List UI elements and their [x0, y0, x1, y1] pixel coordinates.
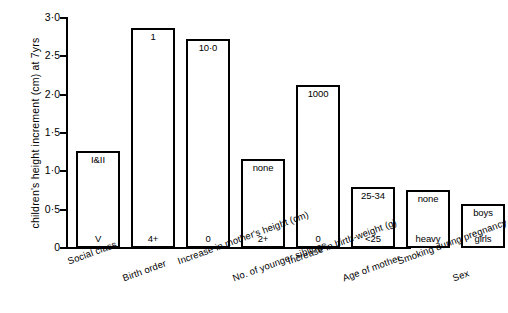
- bar-top-label: 25-34: [353, 191, 393, 201]
- x-axis-category-label: Sex: [451, 267, 470, 283]
- y-axis-tick-label: 1·0: [26, 165, 60, 175]
- bar: 14+: [131, 28, 175, 248]
- y-axis-line: [66, 17, 68, 249]
- bar-top-label: 10·0: [188, 43, 228, 53]
- y-axis-tick-label-wrap: 3·0: [0, 12, 60, 22]
- bar-top-label: boys: [463, 208, 503, 218]
- bar-top-label: 1000: [298, 89, 338, 99]
- y-axis-tick-label: 1·5: [26, 127, 60, 137]
- y-axis-tick-label-wrap: 2·0: [0, 89, 60, 99]
- y-axis-tick-label: 2·5: [26, 50, 60, 60]
- y-axis-tick-label-wrap: 2·5: [0, 50, 60, 60]
- bar: 10·00: [186, 39, 230, 248]
- x-axis-category-label: Age of mother: [341, 252, 402, 283]
- bar-top-label: 1: [133, 32, 173, 42]
- y-axis-tick-label: 0·5: [26, 204, 60, 214]
- x-axis-category-label: Birth order: [121, 257, 167, 283]
- y-axis-tick-label-wrap: 0·5: [0, 204, 60, 214]
- bar-bottom-label: 4+: [133, 234, 173, 244]
- y-axis-tick-label-wrap: 1·0: [0, 165, 60, 175]
- y-axis-tick-label: 2·0: [26, 89, 60, 99]
- bar: I&IIV: [76, 151, 120, 248]
- bar-top-label: I&II: [78, 155, 118, 165]
- y-axis-tick-label: 0: [26, 242, 60, 252]
- y-axis-tick-label: 3·0: [26, 12, 60, 22]
- y-axis-tick-label-wrap: 0: [0, 242, 60, 252]
- y-axis-tick-label-wrap: 1·5: [0, 127, 60, 137]
- bar-top-label: none: [408, 194, 448, 204]
- bar: 10000: [296, 85, 340, 248]
- bar-top-label: none: [243, 163, 283, 173]
